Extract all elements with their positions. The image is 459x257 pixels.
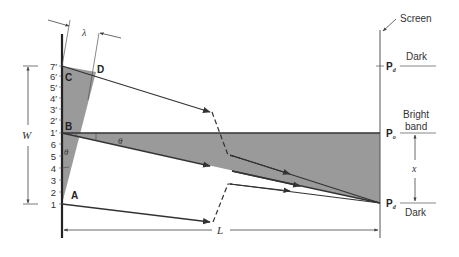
point-c-label: C [65,72,72,83]
point-b-label: B [65,121,72,132]
pd-top-label: Pd [386,61,397,73]
theta-lower-label: θ [64,147,69,157]
slit-number-labels: 7′ 6′ 5′ 4′ 3′ 2′ 1′ 6 5 4 3 2 1 [50,61,57,210]
lambda-arrow-right [100,33,121,38]
tick-label: 1 [51,199,56,210]
po-label: Po [386,128,396,140]
l-label: L [216,224,223,236]
single-slit-diffraction-diagram: Screen λ W L x θ θ C D B A 7′ 6′ 5′ 4′ 3… [0,0,459,257]
pd-bottom-label: Pd [386,198,397,210]
w-label: W [22,129,32,141]
screen-pointer [383,19,396,31]
x-label: x [411,163,417,174]
ray-a [62,204,210,222]
tick-label: 3 [51,175,56,186]
point-a-label: A [71,190,78,201]
tick-label: 6′ [50,71,57,82]
bright-band-label-2: band [405,121,427,132]
tick-label: 4 [51,163,56,174]
tick-label: 4′ [50,93,57,104]
dark-bottom-label: Dark [405,207,427,218]
ray-break-bottom [213,184,235,222]
tick-label: 3′ [50,104,57,115]
point-d-label: D [97,64,104,75]
tick-label: 1′ [50,127,57,138]
lambda-label: λ [81,27,87,38]
tick-label: 2′ [50,115,57,126]
tick-label: 5′ [50,82,57,93]
lambda-guide-left [62,20,70,66]
theta-upper-label: θ [118,136,123,146]
tick-label: 6 [51,139,56,150]
bright-band-label-1: Bright [403,109,429,120]
tick-label: 5 [51,151,56,162]
screen-label: Screen [400,13,432,24]
dark-top-label: Dark [406,51,428,62]
lambda-arrow-left [48,20,69,26]
tick-label: 2 [51,187,56,198]
ray-a-arrow [230,184,290,191]
